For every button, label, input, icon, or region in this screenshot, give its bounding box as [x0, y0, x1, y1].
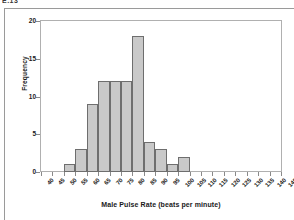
histogram-bars [41, 21, 281, 172]
x-tick-mark [155, 172, 156, 176]
x-tick-mark [64, 172, 65, 176]
x-tick-mark [98, 172, 99, 176]
histogram-bar [64, 164, 75, 172]
x-tick-mark [41, 172, 42, 176]
histogram-bar [155, 149, 166, 172]
y-tick-label: 0 [14, 169, 36, 175]
histogram-bar [87, 104, 98, 172]
histogram-bar [121, 81, 132, 172]
x-tick-mark [247, 172, 248, 176]
x-tick-mark [87, 172, 88, 176]
x-tick-mark [224, 172, 225, 176]
x-axis-title: Male Pulse Rate (beats per minute) [40, 201, 282, 208]
y-tick-mark [36, 172, 40, 173]
clipped-header-text: E.13 [2, 0, 18, 3]
x-tick-mark [190, 172, 191, 176]
y-tick-mark [36, 21, 40, 22]
x-tick-mark [110, 172, 111, 176]
x-tick-mark [167, 172, 168, 176]
y-tick-label: 20 [14, 18, 36, 24]
x-tick-mark [132, 172, 133, 176]
y-tick-label: 10 [14, 94, 36, 100]
x-tick-mark [212, 172, 213, 176]
x-tick-mark [121, 172, 122, 176]
histogram-bar [132, 36, 143, 172]
histogram-figure: E.13 Frequency 05101520 4045505560657075… [0, 0, 294, 220]
histogram-bar [110, 81, 121, 172]
y-tick-mark [36, 59, 40, 60]
x-tick-mark [178, 172, 179, 176]
x-tick-mark [258, 172, 259, 176]
x-tick-mark [52, 172, 53, 176]
y-tick-label: 5 [14, 131, 36, 137]
y-tick-mark [36, 134, 40, 135]
x-tick-mark [75, 172, 76, 176]
histogram-bar [75, 149, 86, 172]
histogram-bar [98, 81, 109, 172]
histogram-bar [167, 164, 178, 172]
histogram-bar [144, 142, 155, 172]
y-tick-mark [36, 97, 40, 98]
x-tick-mark [281, 172, 282, 176]
x-tick-mark [270, 172, 271, 176]
x-tick-mark [235, 172, 236, 176]
histogram-bar [178, 157, 189, 172]
y-tick-label: 15 [14, 56, 36, 62]
x-tick-mark [144, 172, 145, 176]
x-tick-mark [201, 172, 202, 176]
